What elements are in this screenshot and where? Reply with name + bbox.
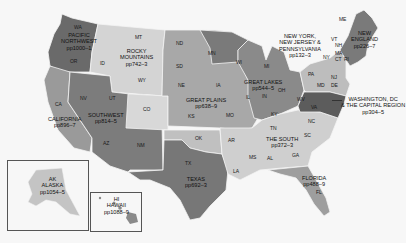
state-label-ok: OK (195, 136, 202, 142)
region-label-california[interactable]: CALIFORNIA pp896–7 (48, 116, 82, 129)
state-label-ri: RI (344, 57, 349, 63)
state-label-tn: TN (270, 126, 276, 132)
region-label-great-plains[interactable]: GREAT PLAINS pp638–9 (186, 97, 226, 110)
region-label-rocky-mountains[interactable]: ROCKY MOUNTAINS pp742–3 (120, 48, 153, 67)
state-label-ut: UT (109, 96, 115, 102)
state-label-nh: NH (335, 43, 342, 49)
state-label-mt: MT (135, 35, 142, 41)
region-name: ENGLAND (351, 36, 378, 42)
state-label-ct: CT (335, 57, 341, 63)
region-label-pacific-northwest[interactable]: PACIFIC NORTHWEST pp1000–1 (61, 32, 97, 51)
region-name: HAWAII (104, 202, 129, 208)
page-reference: pp544–5 (244, 85, 282, 91)
state-label-sd: SD (176, 64, 183, 70)
region-name: & THE CAPITAL REGION (341, 102, 405, 108)
page-reference: pp1000–1 (61, 45, 97, 51)
state-label-sc: SC (304, 133, 311, 139)
state-label-nv: NV (80, 96, 87, 102)
state-label-nj: NJ (331, 75, 337, 81)
state-label-mn: MN (208, 51, 216, 57)
region-label-alaska[interactable]: AK ALASKA pp1054–5 (40, 176, 65, 195)
state-label-wv: WV (297, 97, 305, 103)
region-label-washington-dc[interactable]: WASHINGTON, DC & THE CAPITAL REGION pp30… (341, 96, 405, 115)
page-reference: pp372–3 (266, 142, 298, 148)
region-label-southwest[interactable]: SOUTHWEST pp814–5 (88, 112, 124, 125)
state-label-co: CO (143, 107, 150, 113)
state-label-wa: WA (74, 25, 82, 31)
state-label-wy: WY (138, 78, 146, 84)
state-label-pa: PA (308, 72, 314, 78)
state-label-ne: NE (178, 83, 185, 89)
page-reference: pp1054–5 (40, 189, 65, 195)
region-label-texas[interactable]: TEXAS pp692–3 (185, 176, 207, 189)
region-label-ny-nj-pa[interactable]: NEW YORK, NEW JERSEY & PENNSYLVANIA pp13… (279, 33, 321, 59)
state-label-de: DE (331, 83, 338, 89)
state-label-or: OR (70, 59, 77, 65)
region-name: NEW JERSEY & (279, 39, 321, 45)
region-label-new-england[interactable]: NEW ENGLAND pp226–7 (351, 30, 378, 49)
state-label-md: MD (317, 83, 325, 89)
region-name: ALASKA (40, 182, 65, 188)
state-label-in: IN (262, 94, 267, 100)
washington-dc-leader-line (332, 100, 342, 101)
state-label-ky: KY (271, 112, 277, 118)
state-label-az: AZ (103, 141, 109, 147)
page-reference: pp132–3 (279, 52, 321, 58)
page-reference: pp896–7 (48, 122, 82, 128)
state-label-va: VA (311, 105, 317, 111)
state-label-la: LA (233, 169, 239, 175)
region-label-florida[interactable]: FLORIDA pp488–9 (302, 175, 326, 188)
state-label-wi: WI (236, 60, 242, 66)
state-label-ms: MS (249, 155, 256, 161)
state-label-ks: KS (188, 114, 194, 120)
region-label-hawaii[interactable]: HI HAWAII pp1088–9 (104, 196, 129, 215)
page-reference: pp814–5 (88, 118, 124, 124)
state-label-ia: IA (216, 83, 221, 89)
page-reference: pp304–5 (341, 109, 405, 115)
state-label-ga: GA (292, 153, 299, 159)
state-label-me: ME (339, 17, 346, 23)
state-label-mo: MO (226, 113, 234, 119)
state-label-ar: AR (228, 138, 235, 144)
state-label-ca: CA (55, 102, 62, 108)
state-label-id: ID (100, 61, 105, 67)
region-label-the-south[interactable]: THE SOUTH pp372–3 (266, 136, 298, 149)
us-regions-map: WA OR ID MT WY CA NV UT CO AZ NM ND SD N… (0, 0, 406, 243)
page-reference: pp638–9 (186, 103, 226, 109)
page-reference: pp742–3 (120, 61, 153, 67)
state-label-nm: NM (137, 143, 145, 149)
state-label-al: AL (267, 156, 273, 162)
page-reference: pp226–7 (351, 43, 378, 49)
page-reference: pp692–3 (185, 182, 207, 188)
state-label-nc: NC (308, 119, 315, 125)
page-reference: pp1088–9 (104, 209, 129, 215)
state-label-tx: TX (185, 161, 191, 167)
state-label-ny: NY (323, 55, 330, 61)
region-label-great-lakes[interactable]: GREAT LAKES pp544–5 (244, 79, 282, 92)
page-reference: pp488–9 (302, 181, 326, 187)
state-label-fl: FL (316, 190, 322, 196)
region-name: MOUNTAINS (120, 54, 153, 60)
state-label-il: IL (246, 95, 250, 101)
region-name: NORTHWEST (61, 38, 97, 44)
state-label-nd: ND (176, 41, 183, 47)
state-label-mi: MI (264, 64, 269, 70)
